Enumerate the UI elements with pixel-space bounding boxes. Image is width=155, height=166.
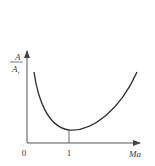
origin-label: 0	[22, 148, 27, 158]
y-label-denominator-sub: t	[18, 70, 20, 75]
area-ratio-curve	[34, 72, 137, 130]
tick-label-1: 1	[67, 148, 72, 158]
y-label-denominator: A	[11, 64, 18, 74]
area-mach-diagram: A A t 0 1 Ma	[0, 0, 155, 166]
x-axis-label: Ma	[128, 149, 141, 159]
y-label-numerator: A	[14, 52, 21, 62]
